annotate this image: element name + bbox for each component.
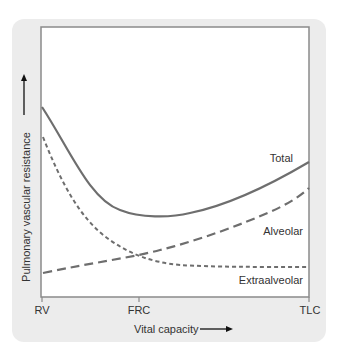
x-axis-arrowhead-icon <box>226 326 233 332</box>
tick-label-tlc: TLC <box>300 304 321 316</box>
label-extraalveolar: Extraalveolar <box>239 274 304 286</box>
label-alveolar: Alveolar <box>263 225 303 237</box>
label-total: Total <box>270 152 293 164</box>
tick-label-rv: RV <box>34 304 50 316</box>
tick-label-frc: FRC <box>128 304 151 316</box>
chart-plot: Total Alveolar Extraalveolar RV FRC TLC … <box>0 0 341 351</box>
y-axis-label: Pulmonary vascular resistance <box>20 132 32 282</box>
x-axis-label: Vital capacity <box>134 323 199 335</box>
y-axis-arrowhead-icon <box>21 74 27 81</box>
